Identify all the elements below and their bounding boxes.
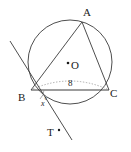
point-t-dot	[58, 129, 60, 131]
vertex-label-c: C	[110, 88, 117, 99]
chord-ab	[31, 22, 82, 90]
figure-canvas	[0, 0, 131, 152]
degree-symbol: °	[45, 97, 47, 103]
point-label-t: T	[47, 127, 54, 138]
chord-ac	[82, 22, 109, 90]
circle-outline	[28, 20, 112, 104]
vertex-label-a: A	[83, 7, 91, 18]
center-label-o: O	[71, 60, 79, 71]
vertex-label-b: B	[18, 92, 25, 103]
geometry-figure: A B C O T x° 8	[0, 0, 131, 152]
arc-measure-label: 8	[68, 79, 73, 88]
angle-label-x: x°	[41, 97, 47, 108]
center-point-dot	[67, 62, 70, 65]
